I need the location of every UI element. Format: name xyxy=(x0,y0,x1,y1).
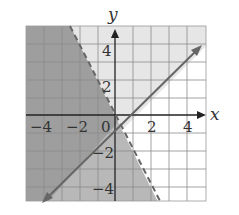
y-tick-label: −4 xyxy=(92,180,114,198)
x-tick-label: 2 xyxy=(147,118,157,136)
y-axis-label: y xyxy=(107,4,118,24)
y-tick-label: 4 xyxy=(102,42,112,60)
x-axis-label: x xyxy=(210,104,220,124)
y-tick-label: 2 xyxy=(102,78,112,96)
y-tick-label: −2 xyxy=(92,144,114,162)
x-tick-label: 0 xyxy=(101,118,111,136)
inequality-graph: x y −4 −2 0 2 4 4 2 −2 −4 xyxy=(0,0,239,215)
x-tick-label: −2 xyxy=(66,118,88,136)
x-tick-label: 4 xyxy=(183,118,193,136)
x-tick-label: −4 xyxy=(30,118,52,136)
